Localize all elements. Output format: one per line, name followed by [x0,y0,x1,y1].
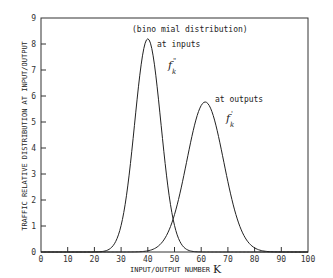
y-tick-label: 4 [31,144,36,153]
svg-text:INPUT/OUTPUT NUMBER: INPUT/OUTPUT NUMBER [130,266,211,274]
x-tick-label: 20 [90,255,100,264]
x-tick-label: 70 [223,255,233,264]
x-tick-label: 90 [276,255,286,264]
x-tick-label: 0 [39,255,44,264]
x-tick-label: 40 [143,255,153,264]
svg-text:k: k [172,68,176,76]
x-tick-label: 100 [301,255,316,264]
y-axis-ticks: 0123456789 [31,14,46,257]
y-tick-label: 5 [31,118,36,127]
x-tick-label: 80 [250,255,260,264]
annotation-binomial: (bino mial distribution) [132,25,248,34]
svg-text:": " [173,57,176,65]
y-tick-label: 3 [31,170,36,179]
y-tick-label: 1 [31,222,36,231]
series-at-outputs-curve [41,102,308,252]
y-tick-label: 8 [31,40,36,49]
x-axis-ticks: 0102030405060708090100 [39,247,316,264]
x-tick-label: 10 [63,255,73,264]
y-axis-title: TRAFFIC RELATIVE DISTRIBUTION AT INPUT/O… [21,40,29,230]
x-tick-label: 50 [170,255,180,264]
svg-text:k: k [230,121,234,129]
x-tick-label: 60 [196,255,206,264]
y-tick-label: 7 [31,66,36,75]
symbol-f-outputs: f ' k [225,110,234,129]
svg-text:': ' [231,110,233,118]
plot-frame [41,18,308,252]
annotation-at-outputs: at outputs [215,95,263,104]
y-tick-label: 6 [31,92,36,101]
chart: 0102030405060708090100 0123456789 (bino … [0,0,333,278]
symbol-f-inputs: f " k [167,57,176,76]
x-axis-title: INPUT/OUTPUT NUMBER K [130,263,222,276]
svg-text:K: K [213,263,222,276]
x-tick-label: 30 [116,255,126,264]
y-tick-label: 2 [31,196,36,205]
annotation-at-inputs: at inputs [157,40,201,49]
y-tick-label: 9 [31,14,36,23]
y-tick-label: 0 [31,248,36,257]
